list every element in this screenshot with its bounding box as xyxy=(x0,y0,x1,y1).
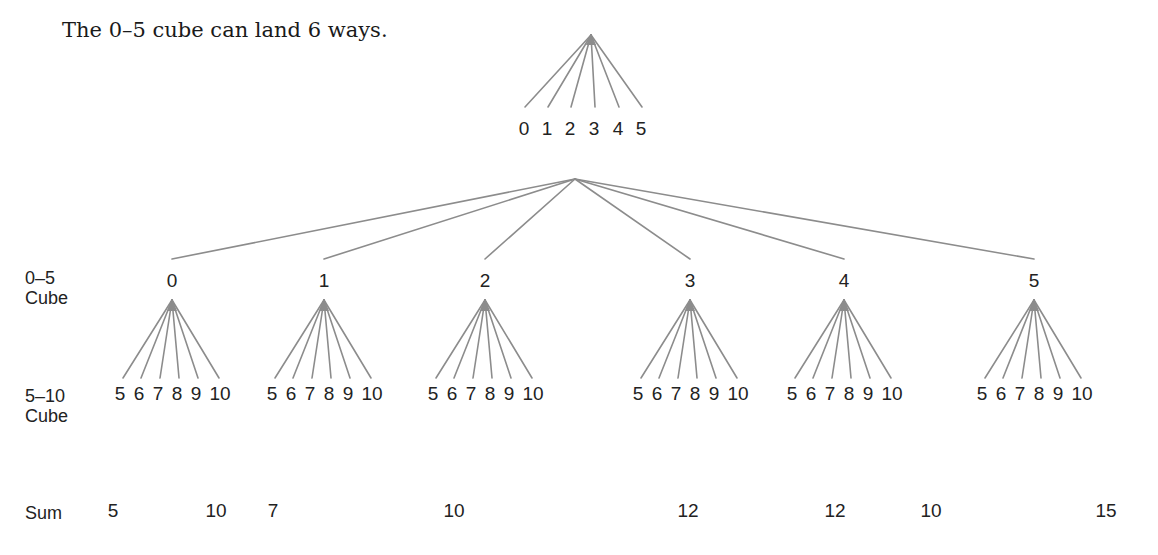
second-cube-outcome: 6 xyxy=(134,384,145,403)
tree-edge xyxy=(844,300,891,378)
second-cube-outcome: 5 xyxy=(633,384,644,403)
sum-value: 12 xyxy=(677,501,698,520)
second-cube-outcome: 9 xyxy=(863,384,874,403)
sum-value: 12 xyxy=(824,501,845,520)
first-cube-row-label: 0–5 Cube xyxy=(25,268,68,308)
sum-value: 10 xyxy=(205,501,226,520)
first-cube-outcome: 4 xyxy=(839,271,850,290)
second-cube-outcome: 6 xyxy=(806,384,817,403)
first-cube-outcome: 1 xyxy=(319,271,330,290)
second-cube-outcome: 7 xyxy=(305,384,316,403)
second-cube-outcome: 6 xyxy=(996,384,1007,403)
second-cube-label-range: 5–10 xyxy=(25,386,68,406)
second-cube-outcome: 8 xyxy=(485,384,496,403)
sum-value: 10 xyxy=(443,501,464,520)
second-cube-outcome: 10 xyxy=(881,384,902,403)
second-cube-outcome: 6 xyxy=(286,384,297,403)
sum-value: 5 xyxy=(108,501,119,520)
tree-edge xyxy=(1022,300,1034,378)
second-cube-outcome: 9 xyxy=(709,384,720,403)
second-cube-outcome: 10 xyxy=(209,384,230,403)
second-cube-outcome: 10 xyxy=(727,384,748,403)
tree-edge xyxy=(575,179,690,259)
tree-edge xyxy=(275,300,324,378)
tree-edge xyxy=(473,300,485,378)
second-cube-outcome: 6 xyxy=(447,384,458,403)
second-cube-outcome: 8 xyxy=(844,384,855,403)
second-cube-outcome: 7 xyxy=(466,384,477,403)
sum-value: 15 xyxy=(1095,501,1116,520)
second-cube-outcome: 5 xyxy=(428,384,439,403)
second-cube-outcome: 8 xyxy=(1034,384,1045,403)
first-cube-label-range: 0–5 xyxy=(25,268,68,288)
second-cube-outcome: 10 xyxy=(1071,384,1092,403)
second-cube-outcome: 9 xyxy=(1053,384,1064,403)
tree-edge xyxy=(659,300,690,378)
second-cube-outcome: 10 xyxy=(361,384,382,403)
tree-edge xyxy=(591,35,642,107)
tree-edge xyxy=(485,300,532,378)
second-cube-outcome: 5 xyxy=(977,384,988,403)
second-cube-outcome: 7 xyxy=(153,384,164,403)
second-cube-outcome: 5 xyxy=(115,384,126,403)
tree-edge xyxy=(293,300,324,378)
tree-edge xyxy=(454,300,485,378)
top-outcome-label: 3 xyxy=(589,119,600,138)
sum-value: 7 xyxy=(268,501,279,520)
tree-diagram: The 0–5 cube can land 6 ways. 012345 0–5… xyxy=(0,0,1158,555)
second-cube-outcome: 7 xyxy=(671,384,682,403)
second-cube-outcome: 8 xyxy=(172,384,183,403)
second-cube-outcome: 9 xyxy=(504,384,515,403)
second-cube-outcome: 8 xyxy=(690,384,701,403)
diagram-caption: The 0–5 cube can land 6 ways. xyxy=(62,18,388,42)
tree-edge xyxy=(123,300,172,378)
top-outcome-label: 0 xyxy=(519,119,530,138)
second-cube-outcome: 5 xyxy=(787,384,798,403)
top-outcome-label: 2 xyxy=(565,119,576,138)
tree-edge xyxy=(172,179,575,259)
first-cube-outcome: 5 xyxy=(1029,271,1040,290)
tree-edge xyxy=(436,300,485,378)
sum-row-label: Sum xyxy=(25,503,62,523)
second-cube-outcome: 10 xyxy=(522,384,543,403)
second-cube-outcome: 6 xyxy=(652,384,663,403)
tree-edge xyxy=(678,300,690,378)
tree-edge xyxy=(548,35,591,107)
sum-value: 10 xyxy=(920,501,941,520)
second-cube-label-word: Cube xyxy=(25,406,68,426)
tree-edge xyxy=(485,179,575,259)
tree-edge xyxy=(324,179,575,259)
second-cube-outcome: 9 xyxy=(343,384,354,403)
second-cube-outcome: 9 xyxy=(191,384,202,403)
top-outcome-label: 5 xyxy=(636,119,647,138)
second-cube-outcome: 8 xyxy=(324,384,335,403)
tree-edge xyxy=(795,300,844,378)
first-cube-outcome: 2 xyxy=(480,271,491,290)
tree-edge xyxy=(141,300,172,378)
second-cube-outcome: 5 xyxy=(267,384,278,403)
tree-edge xyxy=(1003,300,1034,378)
tree-edge xyxy=(312,300,324,378)
tree-edge xyxy=(1034,300,1081,378)
second-cube-row-label: 5–10 Cube xyxy=(25,386,68,426)
tree-edge xyxy=(641,300,690,378)
tree-edge xyxy=(690,300,737,378)
first-cube-outcome: 0 xyxy=(167,271,178,290)
second-cube-outcome: 7 xyxy=(825,384,836,403)
top-outcome-label: 1 xyxy=(542,119,553,138)
top-outcome-label: 4 xyxy=(613,119,624,138)
tree-edge xyxy=(172,300,219,378)
tree-edge xyxy=(324,300,371,378)
tree-edge xyxy=(832,300,844,378)
tree-edge xyxy=(813,300,844,378)
first-cube-label-word: Cube xyxy=(25,288,68,308)
second-cube-outcome: 7 xyxy=(1015,384,1026,403)
first-cube-outcome: 3 xyxy=(685,271,696,290)
tree-edge xyxy=(985,300,1034,378)
tree-edge xyxy=(160,300,172,378)
